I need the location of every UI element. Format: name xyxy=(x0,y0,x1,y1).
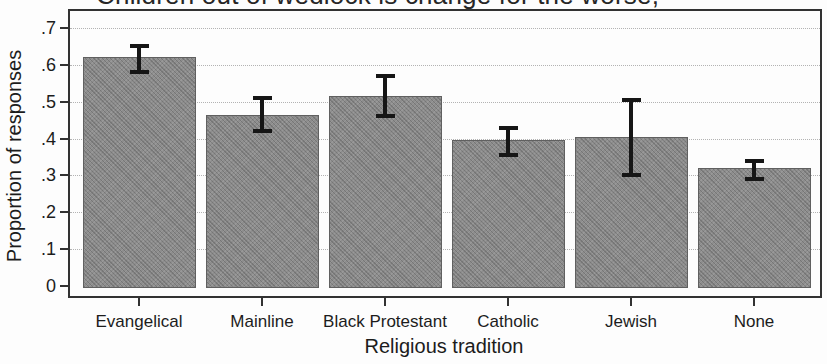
x-tick-catholic xyxy=(507,298,509,306)
x-category-label-catholic: Catholic xyxy=(477,312,538,332)
error-cap-top-catholic xyxy=(499,126,518,130)
bar-mainline xyxy=(206,115,319,288)
y-tick-label-0.7: .7 xyxy=(18,18,56,38)
error-cap-top-black-protestant xyxy=(376,74,395,78)
x-tick-mainline xyxy=(261,298,263,306)
figure-canvas: Children out of wedlock is change for th… xyxy=(0,0,827,364)
x-category-label-jewish: Jewish xyxy=(605,312,657,332)
error-cap-top-none xyxy=(745,159,764,163)
error-bar-black-protestant xyxy=(383,76,387,117)
gridline-0.7 xyxy=(70,28,820,29)
error-cap-bottom-black-protestant xyxy=(376,114,395,118)
error-cap-bottom-mainline xyxy=(253,129,272,133)
y-tick-0.1 xyxy=(60,248,68,250)
bar-catholic xyxy=(452,140,565,288)
error-cap-top-mainline xyxy=(253,96,272,100)
y-tick-0.5 xyxy=(60,101,68,103)
y-axis-title: Proportion of responses xyxy=(3,50,26,262)
x-category-label-none: None xyxy=(734,312,775,332)
error-cap-bottom-none xyxy=(745,177,764,181)
error-bar-catholic xyxy=(506,128,510,156)
y-tick-label-0.4: .4 xyxy=(18,129,56,149)
x-tick-evangelical xyxy=(138,298,140,306)
y-tick-0.2 xyxy=(60,211,68,213)
x-category-label-mainline: Mainline xyxy=(230,312,293,332)
error-cap-bottom-evangelical xyxy=(130,70,149,74)
y-tick-0.7 xyxy=(60,27,68,29)
y-tick-label-0.6: .6 xyxy=(18,55,56,75)
y-tick-label-0.2: .2 xyxy=(18,202,56,222)
x-tick-jewish xyxy=(630,298,632,306)
x-tick-black-protestant xyxy=(384,298,386,306)
error-bar-jewish xyxy=(629,100,633,176)
error-cap-bottom-catholic xyxy=(499,153,518,157)
y-tick-0.3 xyxy=(60,174,68,176)
x-category-label-black-protestant: Black Protestant xyxy=(323,312,447,332)
y-tick-label-0: 0 xyxy=(18,276,56,296)
y-tick-0.4 xyxy=(60,138,68,140)
y-tick-0 xyxy=(60,285,68,287)
y-tick-label-0.3: .3 xyxy=(18,165,56,185)
y-tick-0.6 xyxy=(60,64,68,66)
error-bar-evangelical xyxy=(137,46,141,72)
x-tick-none xyxy=(753,298,755,306)
chart-title-clipped: Children out of wedlock is change for th… xyxy=(96,0,658,8)
x-category-label-evangelical: Evangelical xyxy=(96,312,183,332)
bar-black-protestant xyxy=(329,96,442,288)
y-tick-label-0.1: .1 xyxy=(18,239,56,259)
x-axis-title: Religious tradition xyxy=(365,335,524,358)
error-bar-mainline xyxy=(260,98,264,131)
y-tick-label-0.5: .5 xyxy=(18,92,56,112)
error-cap-bottom-jewish xyxy=(622,173,641,177)
error-cap-top-jewish xyxy=(622,98,641,102)
error-cap-top-evangelical xyxy=(130,44,149,48)
bar-evangelical xyxy=(83,57,196,288)
bar-none xyxy=(698,168,811,288)
